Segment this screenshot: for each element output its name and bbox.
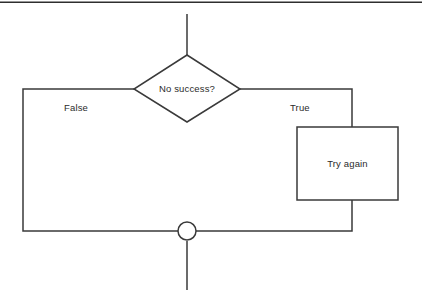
flowchart-svg: No success? Try again False True: [0, 0, 422, 305]
process-node-label: Try again: [327, 158, 368, 169]
edge-label-true: True: [290, 102, 310, 113]
edge-decision-false: [23, 89, 178, 231]
decision-node-label: No success?: [159, 83, 215, 94]
edge-label-false: False: [64, 102, 88, 113]
flowchart-canvas: No success? Try again False True: [0, 0, 422, 305]
merge-junction-shape[interactable]: [178, 222, 196, 240]
edge-action-to-merge: [196, 200, 352, 231]
